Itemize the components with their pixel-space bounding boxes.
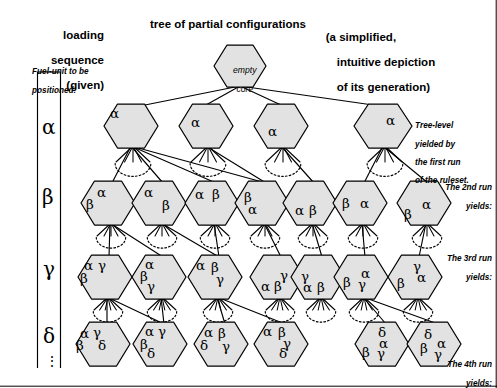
beta-node-1-symbol-1: β: [162, 199, 170, 213]
hexagon-alpha-2: [254, 104, 308, 148]
delta-node-3-symbol-3: δ: [279, 347, 287, 361]
gamma-node-5-symbol-0: β: [343, 276, 351, 290]
delta-node-2-symbol-3: γ: [222, 340, 230, 354]
annotation-run1-line3: the first run: [415, 158, 461, 167]
gamma-node-2-symbol-0: α: [196, 259, 205, 273]
gamma-node-0-symbol-2: β: [80, 272, 88, 286]
beta-node-6-symbol-1: β: [404, 208, 412, 222]
gamma-node-2-symbol-2: γ: [216, 273, 224, 287]
diagram-canvas: loading sequence (given) tree of partial…: [0, 0, 497, 388]
delta-node-0-symbol-2: β: [76, 339, 84, 353]
header-note-line1: (a simplified,: [326, 31, 396, 43]
header-depiction-note: (a simplified, intuitive depiction of it…: [313, 18, 435, 106]
beta-node-2-symbol-1: β: [212, 188, 220, 202]
annotation-run4-line1: The 4th run: [447, 360, 492, 369]
alpha-node-3-symbol-0: α: [386, 114, 395, 128]
gamma-node-5-symbol-2: γ: [358, 278, 366, 292]
root-label-line1: empty: [233, 65, 256, 75]
root-node-label: empty core: [214, 56, 266, 104]
gamma-node-1-symbol-2: γ: [147, 280, 155, 294]
beta-node-4-symbol-1: β: [309, 204, 317, 218]
delta-node-0-symbol-3: δ: [98, 339, 106, 353]
fuel-caption-line1: Fuel-unit to be: [32, 67, 88, 76]
fuel-caption-line2: positioned:: [32, 86, 76, 95]
hexagon-beta-1: [132, 181, 186, 225]
header-note-line3: of its generation): [326, 81, 430, 93]
beta-node-5-symbol-1: α: [360, 197, 369, 211]
gamma-node-6-symbol-1: α: [417, 271, 426, 285]
header-tree-title: tree of partial configurations: [150, 18, 306, 31]
alpha-node-0-symbol-0: α: [110, 107, 119, 121]
annotation-run3-line2: yields:: [466, 273, 492, 282]
hexagon-alpha-1: [179, 104, 233, 148]
annotation-run2-line2: yields:: [466, 202, 492, 211]
legend-level-beta: β: [42, 188, 54, 207]
gamma-node-0-symbol-1: γ: [98, 259, 106, 273]
delta-node-5-symbol-2: β: [420, 342, 428, 356]
beta-node-0-symbol-1: β: [86, 198, 94, 212]
delta-node-3-symbol-0: α: [263, 325, 272, 339]
gamma-node-4-symbol-2: β: [317, 281, 325, 295]
annotation-run1-line1: Tree-level: [415, 121, 453, 130]
fuel-unit-caption: Fuel-unit to be positioned:: [23, 58, 89, 104]
delta-node-2-symbol-2: δ: [200, 339, 208, 353]
gamma-node-3-symbol-1: α: [261, 280, 270, 294]
legend-level-gamma: γ: [43, 260, 55, 279]
beta-node-1-symbol-0: α: [144, 186, 153, 200]
alpha-node-2-symbol-0: α: [268, 125, 277, 139]
beta-node-0-symbol-0: α: [97, 186, 106, 200]
gamma-node-6-symbol-2: β: [397, 277, 405, 291]
legend-level-delta: δ: [43, 327, 55, 346]
delta-node-5-symbol-3: γ: [434, 348, 442, 362]
beta-node-3-symbol-1: α: [248, 203, 257, 217]
legend-level-alpha: α: [42, 118, 56, 137]
beta-node-2-symbol-0: α: [195, 188, 204, 202]
root-label-line2: core: [236, 84, 253, 94]
delta-node-1-symbol-1: γ: [158, 325, 166, 339]
delta-node-1-symbol-3: δ: [147, 347, 155, 361]
gamma-node-3-symbol-2: β: [274, 280, 282, 294]
delta-node-4-symbol-3: γ: [377, 347, 385, 361]
annotation-run4-line2: yields:: [466, 379, 492, 388]
legend-continuation-dots: ⋮: [45, 352, 59, 371]
delta-node-4-symbol-2: β: [362, 346, 370, 360]
beta-node-5-symbol-0: β: [342, 197, 350, 211]
annotation-run3-line1: The 3rd run: [447, 254, 492, 263]
annotation-fourth-run: The 4th run yields:: [412, 351, 492, 388]
hexagon-alpha-3: [354, 104, 412, 148]
beta-node-4-symbol-0: α: [295, 204, 304, 218]
gamma-node-4-symbol-1: α: [303, 281, 312, 295]
annotation-run2-line1: The 2nd run: [445, 183, 492, 192]
beta-node-6-symbol-0: α: [422, 198, 431, 212]
annotation-run1-line2: yielded by: [415, 140, 455, 149]
header-note-line2: intuitive depiction: [326, 56, 435, 68]
header-line-loading: loading: [63, 29, 104, 41]
alpha-node-1-symbol-0: α: [191, 116, 200, 130]
